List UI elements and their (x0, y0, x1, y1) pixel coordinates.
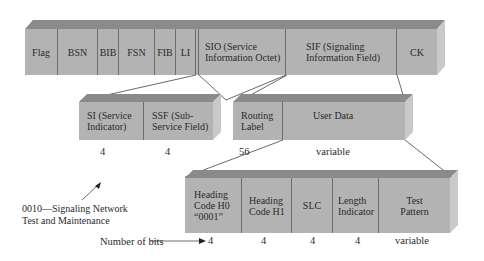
slc-bits: 4 (310, 235, 315, 247)
h1-bits: 4 (261, 235, 266, 247)
row1-side-face (437, 20, 445, 75)
field-si: SI (Service Indicator) (79, 102, 144, 140)
field-label: BIB (100, 47, 117, 58)
ssf-bits: 4 (165, 146, 170, 158)
sio-top-face (79, 94, 221, 102)
field-label: User Data (313, 110, 353, 121)
row3-side-face (450, 170, 458, 233)
field-fib: FIB (155, 29, 176, 75)
field-routing-label: Routing Label (233, 102, 283, 140)
sif-top-face (233, 94, 413, 102)
row3-top-face (185, 170, 458, 178)
field-label: SI (Service Indicator) (87, 110, 139, 132)
field-label: BSN (68, 47, 87, 58)
field-fsn: FSN (119, 29, 155, 75)
field-flag: Flag (25, 29, 58, 75)
bits-arrowhead (199, 238, 206, 244)
field-length-indicator: Length Indicator (333, 178, 379, 233)
sif-side-face (405, 94, 413, 140)
field-ssf: SSF (Sub-Service Field) (144, 102, 213, 140)
field-test-pattern: Test Pattern (379, 178, 450, 233)
routing-label-bits: 56 (239, 146, 250, 158)
row3-front: Heading Code H0 “0001” Heading Code H1 S… (185, 178, 450, 233)
field-label: SIF (Signaling Information Field) (306, 41, 392, 63)
user-data-bits: variable (316, 146, 350, 158)
row1-front: Flag BSN BIB FSN FIB LI SIO (Service Inf… (25, 29, 437, 75)
length-indicator-bits: 4 (355, 235, 360, 247)
field-user-data: User Data (283, 102, 405, 140)
field-sio: SIO (Service Information Octet) (199, 29, 286, 75)
test-pattern-bits: variable (395, 235, 429, 247)
field-label: LI (181, 47, 190, 58)
si-annotation-line1: 0010—Signaling Network (22, 203, 128, 215)
si-bits: 4 (100, 146, 105, 158)
field-label: FSN (127, 47, 145, 58)
field-label: Heading Code H0 “0001” (194, 189, 237, 222)
field-heading-code-h1: Heading Code H1 (242, 178, 292, 233)
field-li: LI (176, 29, 196, 75)
field-label: Test Pattern (395, 195, 435, 217)
sio-front: SI (Service Indicator) SSF (Sub-Service … (79, 102, 213, 140)
field-slc: SLC (292, 178, 333, 233)
field-label: SIO (Service Information Octet) (205, 41, 281, 63)
sio-side-face (213, 94, 221, 140)
annotation-arrow-line (82, 186, 97, 200)
field-label: SLC (303, 200, 321, 211)
field-label: Heading Code H1 (249, 195, 287, 217)
si-annotation-line2: Test and Maintenance (22, 215, 110, 227)
field-bib: BIB (98, 29, 119, 75)
field-label: SSF (Sub-Service Field) (152, 110, 209, 132)
field-ck: CK (397, 29, 437, 75)
h0-bits: 4 (208, 235, 213, 247)
field-bsn: BSN (58, 29, 98, 75)
field-label: Flag (32, 47, 50, 58)
annotation-arrowhead (95, 182, 101, 189)
row1-top-face (25, 20, 445, 29)
sif-front: Routing Label User Data (233, 102, 405, 140)
bits-axis-label: Number of bits (100, 236, 164, 248)
field-heading-code-h0: Heading Code H0 “0001” (185, 178, 242, 233)
field-label: Length Indicator (338, 195, 374, 217)
field-sif: SIF (Signaling Information Field) (286, 29, 397, 75)
field-label: CK (410, 47, 424, 58)
field-label: Routing Label (241, 110, 278, 132)
field-label: FIB (157, 47, 173, 58)
